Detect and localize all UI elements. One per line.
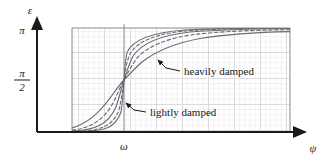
x-tick-omega: ω: [120, 140, 128, 152]
phase-angle-chart: ε ψ π π 2 ω heavily damped lightly dampe…: [0, 0, 324, 162]
heavily-damped-label: heavily damped: [184, 65, 254, 77]
y-tick-pi: π: [19, 24, 25, 36]
y-axis-label: ε: [28, 4, 33, 16]
lightly-damped-label: lightly damped: [150, 106, 217, 118]
y-tick-pi-over-2-denominator: 2: [19, 81, 25, 93]
y-tick-pi-over-2-numerator: π: [19, 67, 25, 79]
x-axis-label: ψ: [310, 142, 317, 154]
